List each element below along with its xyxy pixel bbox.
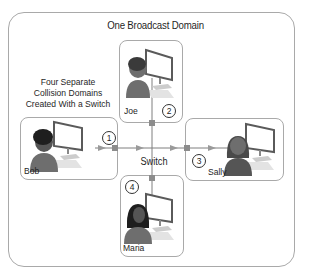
- port-number-1: 1: [102, 131, 116, 145]
- port-icon-3: [184, 145, 190, 151]
- port-icons: [112, 120, 190, 181]
- port-number-2: 2: [162, 104, 176, 118]
- port-number-4: 4: [125, 180, 139, 194]
- joe-workstation-icon: [124, 46, 178, 104]
- arrow-icon: [208, 145, 216, 151]
- port-icon-1: [112, 145, 118, 151]
- host-name-sally: Sally: [208, 166, 227, 177]
- host-name-joe: Joe: [124, 105, 138, 116]
- host-name-maria: Maria: [123, 242, 144, 253]
- sally-workstation-icon: [224, 122, 280, 178]
- port-icon-2: [149, 120, 155, 126]
- maria-workstation-icon: [124, 190, 178, 246]
- arrow-icon: [170, 145, 178, 151]
- arrow-icon: [136, 145, 144, 151]
- switch-label: Switch: [126, 156, 181, 167]
- arrow-icon: [98, 145, 106, 151]
- port-icon-4: [149, 175, 155, 181]
- port-number-3: 3: [192, 154, 206, 168]
- host-name-bob: Bob: [24, 165, 39, 176]
